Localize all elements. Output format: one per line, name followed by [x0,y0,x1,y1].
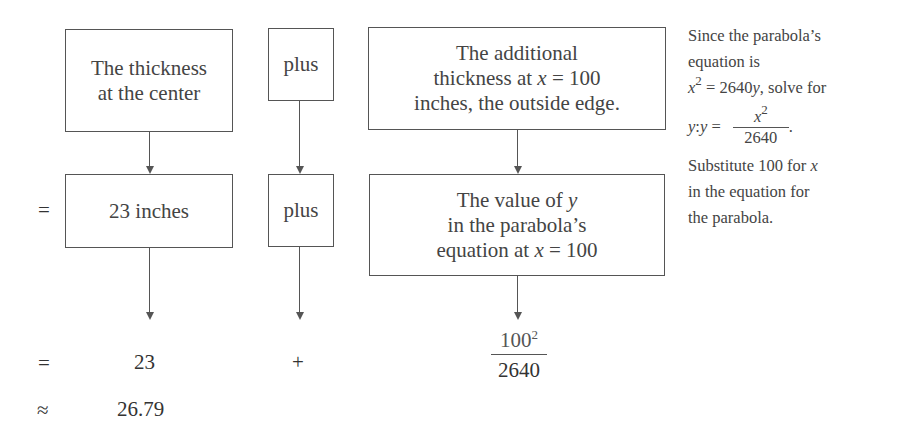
fraction-denominator: 2640 [491,358,547,382]
arrow-down-icon [514,166,522,174]
plus-box-top: plus [268,28,334,101]
plus-box-middle: plus [268,174,334,247]
value-of-y-line3: equation at x = 100 [436,238,597,263]
value-23: 23 [134,350,155,375]
note-line-1: Since the parabola’s [688,23,902,49]
side-note: Since the parabola’s equation is x2 = 26… [688,23,902,231]
note-line-2: equation is [688,49,902,75]
center-thickness-line1: The thickness [91,56,207,81]
note-line-6: in the equation for [688,179,902,205]
connector-line [149,132,150,166]
23-inches-box: 23 inches [65,174,233,248]
additional-thickness-line2: thickness at x = 100 [414,66,620,91]
connector-line [299,101,300,166]
arrow-down-icon [296,166,304,174]
arrow-down-icon [296,312,304,320]
note-line-4: y: y = x2 2640 . [688,101,902,153]
equals-symbol-bottom: = [38,351,50,376]
plus-label-top: plus [283,52,318,77]
fraction-100-squared-over-2640: 1002 2640 [491,328,547,382]
connector-line [149,248,150,312]
plus-symbol: + [292,350,304,375]
result-value: 26.79 [117,397,164,422]
23-inches-label: 23 inches [109,199,189,224]
note-fraction: x2 2640 [733,108,789,147]
additional-thickness-line1: The additional [414,41,620,66]
value-of-y-line2: in the parabola’s [436,213,597,238]
connector-line [517,276,518,312]
value-of-y-box: The value of y in the parabola’s equatio… [369,174,665,276]
note-line-7: the parabola. [688,205,902,231]
fraction-bar [491,354,547,355]
arrow-down-icon [146,166,154,174]
plus-label-middle: plus [283,198,318,223]
additional-thickness-box: The additional thickness at x = 100 inch… [368,27,666,130]
additional-thickness-line3: inches, the outside edge. [414,91,620,116]
fraction-numerator: 1002 [491,328,547,352]
approx-symbol: ≈ [37,398,49,423]
center-thickness-line2: at the center [91,81,207,106]
equals-symbol-middle: = [38,198,50,223]
note-line-3: x2 = 2640y, solve for [688,75,902,101]
arrow-down-icon [514,312,522,320]
connector-line [517,130,518,166]
connector-line [299,247,300,312]
arrow-down-icon [146,312,154,320]
value-of-y-line1: The value of y [436,188,597,213]
center-thickness-box: The thickness at the center [65,29,233,132]
note-line-5: Substitute 100 for x [688,153,902,179]
